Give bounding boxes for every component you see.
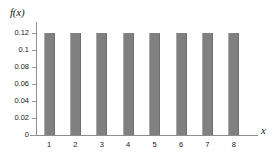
- bar: [176, 33, 187, 135]
- y-tick-mark: [32, 67, 36, 68]
- bar: [44, 33, 55, 135]
- x-tick-label: 8: [224, 140, 244, 149]
- x-tick-label: 6: [171, 140, 191, 149]
- bar: [70, 33, 81, 135]
- y-tick-label: 0.04: [14, 97, 29, 105]
- y-tick-mark: [32, 135, 36, 136]
- y-tick-mark: [32, 101, 36, 102]
- y-tick-label: 0.1: [19, 46, 29, 54]
- bar: [149, 33, 160, 135]
- y-tick-label: 0.06: [14, 80, 29, 88]
- bar: [123, 33, 134, 135]
- y-tick-mark: [32, 118, 36, 119]
- x-tick-label: 2: [65, 140, 85, 149]
- x-tick-label: 3: [92, 140, 112, 149]
- bar: [228, 33, 239, 135]
- x-tick-label: 1: [39, 140, 59, 149]
- x-tick-label: 4: [118, 140, 138, 149]
- x-axis-line: [30, 135, 258, 136]
- bar-chart: f(x) x 00.020.040.060.080.10.12 12345678: [0, 0, 280, 161]
- y-tick-label: 0.08: [14, 63, 29, 71]
- bar: [96, 33, 107, 135]
- y-tick-label: 0.12: [14, 29, 29, 37]
- y-axis-line: [36, 22, 37, 136]
- x-tick-label: 7: [197, 140, 217, 149]
- y-tick-mark: [32, 84, 36, 85]
- y-tick-label: 0: [25, 131, 29, 139]
- y-tick-label: 0.02: [14, 114, 29, 122]
- bar: [202, 33, 213, 135]
- y-tick-mark: [32, 50, 36, 51]
- x-axis-label: x: [261, 124, 266, 136]
- y-tick-mark: [32, 33, 36, 34]
- y-axis-label: f(x): [10, 6, 24, 18]
- x-tick-label: 5: [145, 140, 165, 149]
